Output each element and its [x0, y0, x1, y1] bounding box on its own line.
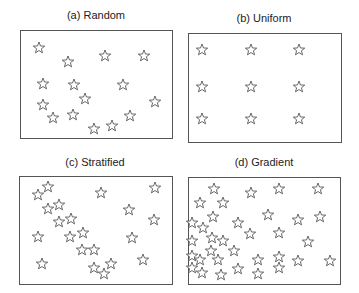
star-icon: [293, 113, 304, 124]
star-icon: [117, 79, 128, 90]
star-icon: [245, 44, 256, 55]
star-icon: [314, 211, 325, 222]
star-icon: [228, 245, 239, 256]
star-icon: [42, 203, 53, 214]
star-icon: [149, 182, 160, 193]
star-icon: [32, 231, 43, 242]
star-icon: [88, 262, 99, 273]
star-icon: [232, 217, 243, 228]
panel-title-gradient: (d) Gradient: [214, 156, 314, 168]
star-icon: [105, 258, 116, 269]
star-icon: [293, 44, 304, 55]
panel-gradient: [186, 178, 340, 285]
star-icon: [47, 112, 58, 123]
star-icon: [76, 244, 87, 255]
star-icon: [208, 183, 219, 194]
star-icon: [273, 183, 284, 194]
panel-stratified: [20, 177, 173, 285]
star-icon: [32, 189, 43, 200]
star-icon: [273, 262, 284, 273]
star-icon: [217, 235, 228, 246]
star-icon: [196, 113, 207, 124]
star-icon: [37, 99, 48, 110]
star-icon: [196, 267, 207, 278]
star-icon: [205, 245, 216, 256]
star-icon: [77, 227, 88, 238]
star-icon: [137, 254, 148, 265]
star-icon: [245, 113, 256, 124]
star-icon: [65, 213, 76, 224]
star-icon: [149, 96, 160, 107]
diagram-canvas: [0, 0, 359, 293]
star-icon: [53, 216, 64, 227]
star-icon: [95, 187, 106, 198]
star-icon: [99, 50, 110, 61]
star-icon: [215, 269, 226, 280]
star-icon: [196, 81, 207, 92]
star-icon: [88, 244, 99, 255]
star-icon: [33, 42, 44, 53]
star-icon: [302, 236, 313, 247]
star-icon: [62, 56, 73, 67]
star-icon: [245, 81, 256, 92]
star-icon: [324, 255, 335, 266]
star-icon: [292, 214, 303, 225]
star-icon: [197, 222, 208, 233]
star-icon: [148, 214, 159, 225]
star-icon: [194, 197, 205, 208]
panel-title-uniform: (b) Uniform: [214, 12, 314, 24]
star-icon: [37, 78, 48, 89]
star-icon: [79, 93, 90, 104]
star-icon: [64, 231, 75, 242]
star-icon: [312, 183, 323, 194]
star-icon: [293, 81, 304, 92]
star-icon: [124, 110, 135, 121]
star-icon: [123, 204, 134, 215]
panel-title-random: (a) Random: [46, 9, 146, 21]
star-icon: [68, 79, 79, 90]
star-icon: [106, 120, 117, 131]
star-icon: [273, 251, 284, 262]
panel-frame: [189, 34, 342, 143]
star-icon: [98, 268, 109, 279]
star-icon: [207, 211, 218, 222]
star-icon: [42, 181, 53, 192]
star-icon: [244, 228, 255, 239]
panel-random: [21, 31, 173, 139]
star-icon: [53, 199, 64, 210]
star-icon: [252, 268, 263, 279]
star-icon: [273, 227, 284, 238]
star-icon: [217, 197, 228, 208]
star-icon: [36, 258, 47, 269]
star-icon: [196, 44, 207, 55]
star-icon: [262, 209, 273, 220]
star-icon: [206, 232, 217, 243]
star-icon: [138, 50, 149, 61]
star-icon: [67, 109, 78, 120]
star-icon: [245, 187, 256, 198]
star-icon: [88, 123, 99, 134]
star-icon: [292, 255, 303, 266]
panel-uniform: [189, 34, 342, 143]
star-icon: [252, 254, 263, 265]
panel-title-stratified: (c) Stratified: [45, 156, 145, 168]
star-icon: [126, 232, 137, 243]
star-icon: [232, 263, 243, 274]
